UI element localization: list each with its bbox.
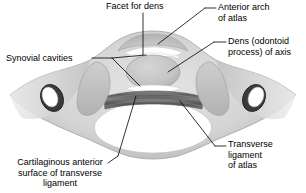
dens-of-axis bbox=[126, 55, 180, 89]
label-cartilaginous-anterior-surface: Cartilaginous anterior surface of transv… bbox=[2, 157, 118, 189]
label-anterior-arch-of-atlas: Anterior arch of atlas bbox=[218, 2, 270, 23]
vertebral-foramen bbox=[94, 101, 211, 153]
label-dens-odontoid-process: Dens (odontoid process) of axis bbox=[228, 36, 291, 57]
label-facet-for-dens: Facet for dens bbox=[106, 1, 164, 12]
label-synovial-cavities: Synovial cavities bbox=[6, 53, 73, 64]
label-transverse-ligament-of-atlas: Transverse ligament of atlas bbox=[228, 139, 273, 171]
